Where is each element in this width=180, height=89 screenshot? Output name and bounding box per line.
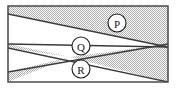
region-label-r: R [72,60,90,78]
figure-container: P Q R [0,0,180,89]
region-label-q: Q [72,37,90,55]
region-label-p-text: P [114,18,120,30]
region-label-r-text: R [77,64,85,76]
shaded-region-figure: P Q R [0,0,180,89]
region-label-q-text: Q [77,41,85,53]
region-label-p: P [108,14,126,32]
